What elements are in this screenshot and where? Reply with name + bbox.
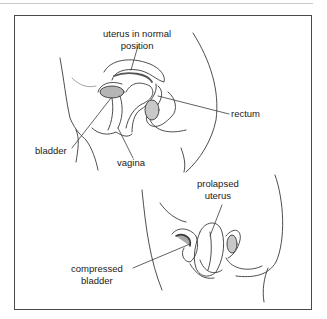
- label-bladder: bladder: [35, 145, 67, 157]
- normal-anatomy-drawing: [60, 33, 217, 172]
- label-uterus-normal: uterus in normal position: [103, 28, 171, 52]
- label-uterus-prolapsed: prolapsed uterus: [197, 178, 239, 202]
- leader-uterus-prolapsed: [210, 205, 222, 236]
- leader-bladder-compressed: [133, 244, 190, 268]
- leader-vagina: [118, 128, 133, 158]
- label-line: uterus in normal: [103, 28, 171, 40]
- label-rectum: rectum: [231, 108, 260, 120]
- leader-rectum: [158, 96, 229, 114]
- label-line: prolapsed: [197, 178, 239, 190]
- label-line: compressed: [71, 263, 123, 275]
- leader-bladder: [72, 98, 111, 148]
- label-line: bladder: [71, 275, 123, 287]
- label-bladder-compressed: compressed bladder: [71, 263, 123, 287]
- label-vagina: vagina: [117, 157, 145, 169]
- label-line: uterus: [197, 190, 239, 202]
- label-line: position: [103, 40, 171, 52]
